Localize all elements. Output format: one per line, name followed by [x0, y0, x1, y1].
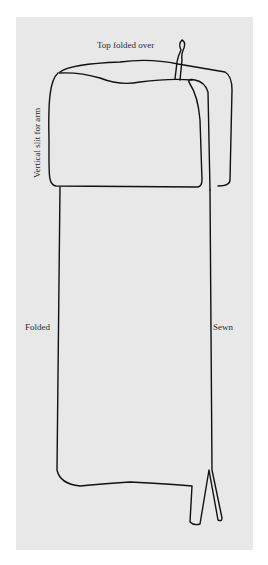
- garment-drawing: [0, 0, 268, 565]
- label-vertical-slit: Vertical slit for arm: [32, 108, 42, 178]
- label-sewn: Sewn: [213, 322, 233, 332]
- label-top-folded-over: Top folded over: [97, 40, 154, 50]
- label-folded: Folded: [25, 322, 50, 332]
